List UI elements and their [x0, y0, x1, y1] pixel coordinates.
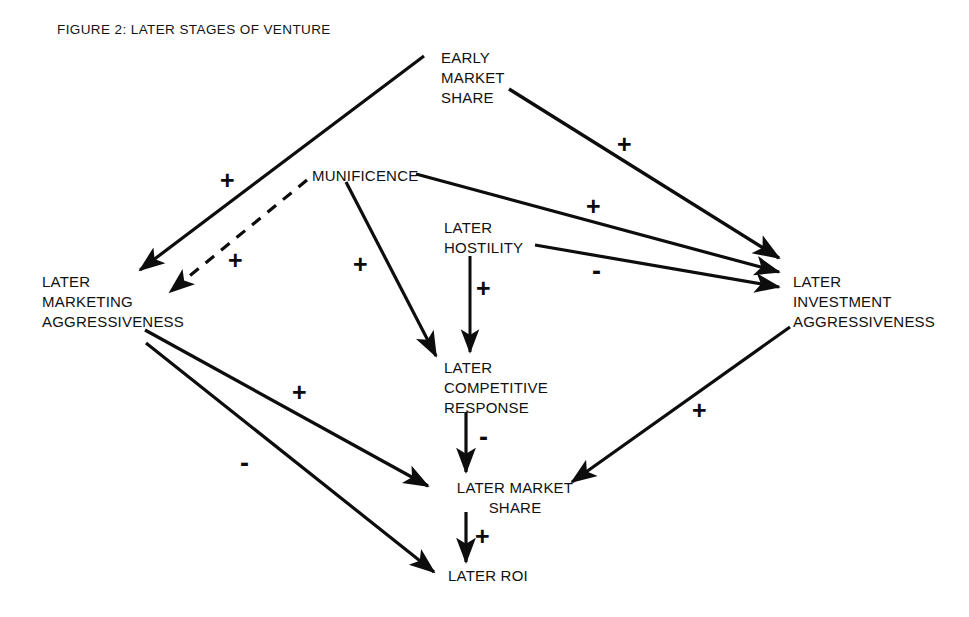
edge-sign-hostility-to-lcr: +: [476, 276, 491, 301]
node-later-roi[interactable]: LATER ROI: [448, 566, 528, 586]
edge-lma-to-lms: [145, 330, 428, 486]
node-later-market-share[interactable]: LATER MARKET SHARE: [440, 478, 590, 518]
node-later-competitive-response[interactable]: LATER COMPETITIVE RESPONSE: [444, 358, 548, 418]
figure-canvas: FIGURE 2: LATER STAGES OF VENTURE: [0, 0, 969, 617]
node-munificence[interactable]: MUNIFICENCE: [312, 166, 418, 186]
edge-sign-ems-to-lma: +: [220, 168, 235, 193]
edge-sign-lcr-to-lms: -: [479, 424, 488, 451]
edge-sign-hostility-to-lia: -: [592, 258, 601, 285]
node-early-market-share[interactable]: EARLY MARKET SHARE: [441, 48, 505, 108]
node-later-marketing-aggressiveness[interactable]: LATER MARKETING AGGRESSIVENESS: [42, 272, 184, 332]
edge-sign-mun-to-lia: +: [586, 194, 601, 219]
node-later-hostility[interactable]: LATER HOSTILITY: [444, 218, 523, 258]
edge-lia-to-lms: [572, 327, 790, 482]
edge-sign-lms-to-roi: +: [475, 524, 490, 549]
edge-sign-lia-to-lms: +: [692, 398, 707, 423]
edge-hostility-to-lia: [535, 245, 779, 287]
edge-sign-mun-to-lma: +: [228, 248, 243, 273]
edge-sign-mun-to-lcr: +: [353, 252, 368, 277]
edge-sign-ems-to-lia: +: [617, 132, 632, 157]
edge-ems-to-lma: [140, 56, 424, 270]
edge-ems-to-lia: [509, 89, 779, 258]
edge-sign-lma-to-lms: +: [292, 380, 307, 405]
edge-lma-to-roi: [146, 343, 434, 572]
node-later-investment-aggressiveness[interactable]: LATER INVESTMENT AGGRESSIVENESS: [793, 272, 935, 332]
edge-sign-lma-to-roi: -: [240, 450, 249, 477]
